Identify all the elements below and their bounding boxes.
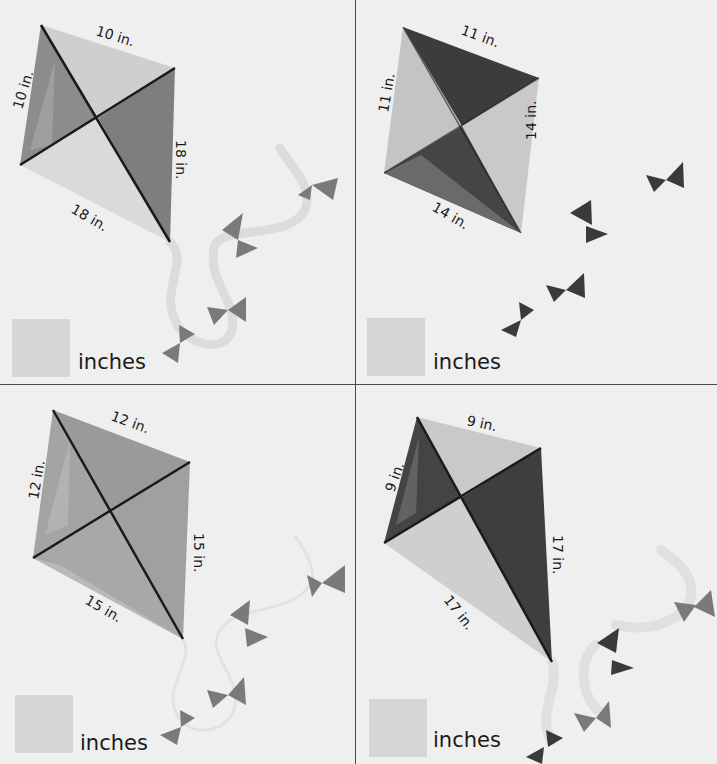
svg-text:17 in.: 17 in. bbox=[550, 535, 566, 574]
bow-icon bbox=[207, 677, 246, 708]
bow-icon bbox=[230, 600, 268, 647]
answer-box[interactable] bbox=[367, 318, 425, 376]
quadrant-top-right: 11 in. 11 in. 14 in. 14 in. inches bbox=[356, 0, 717, 384]
svg-text:18 in.: 18 in. bbox=[173, 140, 189, 179]
quadrant-bottom-left: 12 in. 12 in. 15 in. 15 in. inches bbox=[0, 385, 355, 764]
answer-box[interactable] bbox=[369, 699, 427, 757]
answer-box[interactable] bbox=[15, 695, 73, 753]
svg-text:15 in.: 15 in. bbox=[191, 533, 207, 572]
svg-text:14 in.: 14 in. bbox=[523, 101, 539, 140]
svg-text:12 in.: 12 in. bbox=[109, 408, 152, 437]
bow-icon bbox=[570, 200, 608, 243]
svg-text:11 in.: 11 in. bbox=[459, 22, 502, 51]
unit-label: inches bbox=[78, 350, 146, 374]
tail-ribbon bbox=[546, 550, 691, 740]
kite-worksheet: 10 in. 10 in. 18 in. 18 in. inches bbox=[0, 0, 717, 764]
answer-box[interactable] bbox=[12, 319, 70, 377]
bow-icon bbox=[546, 273, 585, 302]
unit-label: inches bbox=[433, 728, 501, 752]
quadrant-top-left: 10 in. 10 in. 18 in. 18 in. inches bbox=[0, 0, 355, 384]
quadrant-bottom-right: 9 in. 9 in. 17 in. 17 in. inches bbox=[356, 385, 717, 764]
bow-icon bbox=[597, 628, 634, 675]
unit-label: inches bbox=[433, 350, 501, 374]
bow-icon bbox=[501, 302, 534, 337]
unit-label: inches bbox=[80, 731, 148, 755]
bow-icon bbox=[646, 162, 684, 192]
